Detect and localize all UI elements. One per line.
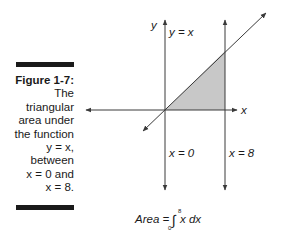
vline-right-label: x = 8 (228, 147, 255, 159)
integral-sign: ∫ (171, 212, 177, 228)
line-label: y = x (168, 26, 195, 38)
integrand: x dx (179, 213, 202, 225)
y-axis-label: y (150, 19, 158, 31)
vline-left-label: x = 0 (168, 147, 195, 159)
x-axis-label: x (240, 104, 248, 116)
integral-diagram: y y = x x x = 0 x = 8 Area = ∫ 8 0 x dx (0, 0, 281, 244)
formula-prefix: Area = (134, 213, 169, 225)
line-y-equals-x (143, 13, 266, 131)
